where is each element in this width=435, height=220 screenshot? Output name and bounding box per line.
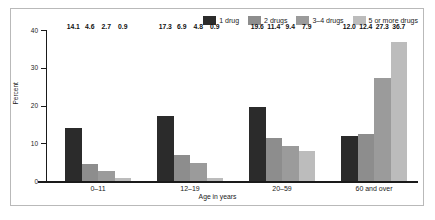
bar-column[interactable]: 19.6 [249, 30, 266, 181]
bar-value-label: 19.6 [251, 23, 264, 30]
legend-item-label: 3–4 drugs [312, 16, 343, 25]
bar-value-label: 14.1 [67, 23, 80, 30]
x-axis-line [38, 181, 418, 183]
bar[interactable]: 0.9 [207, 178, 224, 181]
bar-column[interactable]: 9.4 [282, 30, 299, 181]
bar-value-label: 4.6 [85, 23, 94, 30]
x-axis-tick-label: 0–11 [58, 185, 138, 192]
bar-group: 19.611.49.47.9 [249, 30, 315, 181]
bar-group: 14.14.62.70.9 [65, 30, 131, 181]
legend-item[interactable]: 1 drug [203, 16, 239, 25]
bar[interactable]: 12.0 [341, 136, 358, 181]
bar-value-label: 7.9 [302, 23, 311, 30]
bar[interactable]: 6.9 [174, 155, 191, 181]
plot-area: 14.14.62.70.917.36.94.80.919.611.49.47.9… [46, 30, 414, 181]
y-axis-tick-label: 0 [16, 178, 38, 185]
bar-column[interactable]: 12.0 [341, 30, 358, 181]
bar-group: 17.36.94.80.9 [157, 30, 223, 181]
x-axis-tick-label: 20–59 [242, 185, 322, 192]
bar-value-label: 17.3 [159, 23, 172, 30]
bar-value-label: 11.4 [267, 23, 280, 30]
bar[interactable]: 17.3 [157, 116, 174, 181]
bar-value-label: 0.9 [118, 23, 127, 30]
y-axis-tick-label: 40 [16, 27, 38, 34]
bar-column[interactable]: 0.9 [207, 30, 224, 181]
bar-column[interactable]: 11.4 [266, 30, 283, 181]
bar[interactable]: 27.3 [374, 78, 391, 181]
bar-value-label: 6.9 [177, 23, 186, 30]
bar-column[interactable]: 2.7 [98, 30, 115, 181]
bar-column[interactable]: 0.9 [115, 30, 132, 181]
x-axis-tick-label: 60 and over [334, 185, 414, 192]
bar[interactable]: 11.4 [266, 138, 283, 181]
bar-value-label: 36.7 [392, 23, 405, 30]
chart-figure: 1 drug2 drugs3–4 drugs5 or more drugs Pe… [0, 0, 435, 220]
bar-column[interactable]: 6.9 [174, 30, 191, 181]
bar[interactable]: 9.4 [282, 146, 299, 181]
bar[interactable]: 12.4 [358, 134, 375, 181]
bar-value-label: 4.8 [194, 23, 203, 30]
bar[interactable]: 14.1 [65, 128, 82, 181]
bar-value-label: 12.0 [343, 23, 356, 30]
legend-item-label: 1 drug [219, 16, 239, 25]
bar[interactable]: 4.8 [190, 163, 207, 181]
bar[interactable]: 7.9 [299, 151, 316, 181]
bar[interactable]: 4.6 [82, 164, 99, 181]
bar-value-label: 27.3 [376, 23, 389, 30]
x-axis-tick-label: 12–19 [150, 185, 230, 192]
bar-column[interactable]: 12.4 [358, 30, 375, 181]
bar-column[interactable]: 36.7 [391, 30, 408, 181]
bar-value-label: 0.9 [210, 23, 219, 30]
bar-value-label: 9.4 [286, 23, 295, 30]
y-axis-tick-mark [41, 181, 46, 182]
bar-group: 12.012.427.336.7 [341, 30, 407, 181]
bar[interactable]: 36.7 [391, 42, 408, 181]
bar-column[interactable]: 14.1 [65, 30, 82, 181]
bar-column[interactable]: 17.3 [157, 30, 174, 181]
bar-value-label: 12.4 [359, 23, 372, 30]
bar-column[interactable]: 4.6 [82, 30, 99, 181]
bar[interactable]: 2.7 [98, 171, 115, 181]
bar[interactable]: 19.6 [249, 107, 266, 181]
y-axis-tick-label: 20 [16, 102, 38, 109]
x-axis-label: Age in years [0, 193, 435, 200]
bar[interactable]: 0.9 [115, 178, 132, 181]
y-axis-tick-label: 30 [16, 64, 38, 71]
bar-column[interactable]: 7.9 [299, 30, 316, 181]
bar-column[interactable]: 4.8 [190, 30, 207, 181]
bar-value-label: 2.7 [102, 23, 111, 30]
y-axis-tick-label: 10 [16, 140, 38, 147]
bar-column[interactable]: 27.3 [374, 30, 391, 181]
